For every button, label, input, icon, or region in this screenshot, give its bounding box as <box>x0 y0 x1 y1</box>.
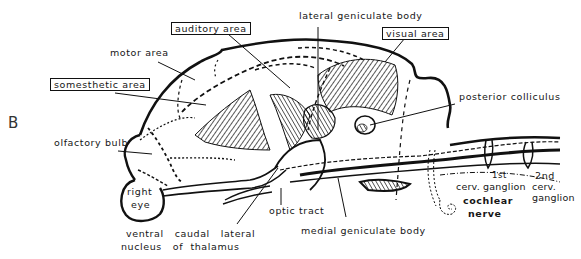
label-motor-area: motor area <box>110 47 169 58</box>
label-nerve: nerve <box>468 208 502 219</box>
label-first-cerv-ganglion: cerv. ganglion <box>456 181 526 192</box>
label-right-eye-1: right <box>127 186 152 197</box>
somesthetic-radiation <box>195 90 270 150</box>
label-right-eye-2: eye <box>131 199 150 210</box>
label-posterior-colliculus: posterior colliculus <box>459 91 560 102</box>
label-first-ganglion-ordinal: 1st <box>492 170 507 181</box>
colliculus-inner <box>357 124 367 132</box>
brainstem-tract <box>450 137 560 145</box>
brain-drawing <box>0 0 581 259</box>
leader-mgb <box>338 178 346 217</box>
area-boundary <box>148 128 182 182</box>
area-boundary <box>170 158 235 160</box>
visual-radiation <box>318 59 398 115</box>
optic-tract-curve <box>275 140 325 190</box>
panel-letter: B <box>8 114 18 132</box>
area-boundary <box>138 170 168 186</box>
cochlear-nerve-line <box>434 150 440 200</box>
brainstem-tract <box>290 163 560 182</box>
label-optic-tract: optic tract <box>269 205 324 216</box>
lateral-geniculate-mass <box>304 105 335 139</box>
label-thalamus-1: ventral caudal lateral <box>126 228 255 239</box>
label-thalamus-2: nucleus of thalamus <box>121 241 239 252</box>
label-olfactory-bulb: olfactory bulb <box>54 137 128 148</box>
medial-geniculate-shape <box>360 180 410 191</box>
cochlear-spiral <box>440 200 456 214</box>
label-somesthetic-area: somesthetic area <box>50 78 150 91</box>
area-boundary <box>298 48 364 61</box>
label-auditory-area: auditory area <box>171 22 251 35</box>
area-boundary <box>255 64 315 70</box>
cochlear-nerve-line <box>428 150 436 206</box>
label-medial-geniculate-body: medial geniculate body <box>301 225 426 236</box>
label-lateral-geniculate-body: lateral geniculate body <box>299 10 423 21</box>
area-boundary <box>215 60 218 78</box>
area-boundary <box>178 80 182 118</box>
label-second-cerv: cerv. <box>532 181 556 192</box>
label-second-ganglion-ordinal: 2nd <box>535 170 555 181</box>
label-second-ganglion: ganglion <box>532 192 575 203</box>
leader-olfactory <box>118 151 152 154</box>
brainstem-tract <box>300 150 560 175</box>
label-visual-area: visual area <box>382 27 449 40</box>
brain-diagram: B auditory area lateral geniculate body … <box>0 0 581 259</box>
label-cochlear: cochlear <box>463 195 513 206</box>
